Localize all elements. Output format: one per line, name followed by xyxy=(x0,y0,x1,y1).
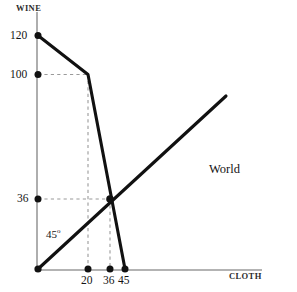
angle-45-label: 45o xyxy=(46,228,61,240)
guide-lines-group xyxy=(38,75,110,270)
origin-point xyxy=(34,265,41,272)
x-tick-label-36: 36 xyxy=(103,275,115,287)
x-axis-title: CLOTH xyxy=(229,272,262,281)
equilibrium-point xyxy=(106,195,114,203)
cloth-45-point xyxy=(122,266,129,273)
angle-45-value: 45 xyxy=(46,228,57,240)
world-region-label: World xyxy=(209,163,240,176)
x-tick-label-45: 45 xyxy=(118,275,130,287)
y-tick-label-36: 36 xyxy=(17,193,29,205)
x-tick-label-20: 20 xyxy=(81,275,93,287)
world-price-line xyxy=(38,96,226,269)
y-axis-title: WINE xyxy=(16,4,41,13)
cloth-36-point xyxy=(107,266,114,273)
y-tick-label-100: 100 xyxy=(10,69,27,81)
y-tick-label-120: 120 xyxy=(10,30,27,42)
cloth-20-point xyxy=(85,266,92,273)
chart-canvas xyxy=(0,0,297,292)
axes-group xyxy=(37,12,262,270)
degree-symbol-icon: o xyxy=(57,227,61,235)
trade-diagram: WINE CLOTH 120 100 36 20 36 45 World 45o xyxy=(0,0,297,292)
wine-100-point xyxy=(35,71,42,78)
wine-120-point xyxy=(35,32,42,39)
wine-36-point xyxy=(35,196,42,203)
